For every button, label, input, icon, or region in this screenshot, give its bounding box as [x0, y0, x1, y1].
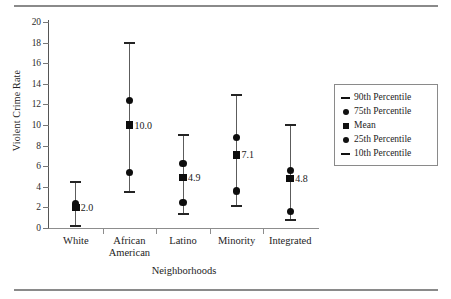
legend-marker-glyph	[343, 123, 349, 129]
mean-square	[126, 121, 134, 129]
y-tick-label: 4	[15, 182, 41, 192]
whisker-cap	[178, 134, 189, 136]
plot-area: 2.010.04.97.14.8	[49, 22, 317, 228]
figure: 02468101214161820 Violent Crime Rate Nei…	[0, 0, 451, 299]
percentile-dot	[126, 97, 133, 104]
whisker-cap	[124, 191, 135, 193]
bottom-rule	[14, 289, 438, 291]
percentile-dot	[126, 169, 133, 176]
y-tick-label: 2	[15, 202, 41, 212]
mean-value-label: 4.9	[188, 172, 201, 183]
legend-item: Mean	[340, 118, 433, 132]
y-tick-label: 0	[15, 223, 41, 233]
y-tick-mark	[43, 228, 49, 229]
whisker-cap	[70, 225, 81, 227]
whisker-cap	[124, 42, 135, 44]
legend-circle-icon	[340, 106, 351, 116]
x-category-label: Integrated	[253, 235, 327, 247]
percentile-dot	[179, 160, 186, 167]
percentile-dot	[179, 199, 186, 206]
legend-marker-glyph	[343, 109, 349, 115]
whisker-cap	[231, 205, 242, 207]
legend-item: 75th Percentile	[340, 104, 433, 118]
whisker-cap	[231, 94, 242, 96]
x-tick-mark	[210, 229, 211, 234]
y-axis-title: Violent Crime Rate	[11, 46, 22, 176]
legend-dash-icon	[340, 148, 351, 158]
whisker-cap	[178, 213, 189, 215]
whisker-cap	[285, 124, 296, 126]
legend-item: 10th Percentile	[340, 146, 433, 160]
mean-square	[233, 151, 241, 159]
legend-dash-icon	[340, 92, 351, 102]
percentile-dot	[287, 208, 294, 215]
y-tick-label: 20	[15, 17, 41, 27]
mean-value-label: 2.0	[81, 202, 94, 213]
x-tick-mark	[263, 229, 264, 234]
legend-item: 90th Percentile	[340, 90, 433, 104]
x-axis-line	[49, 228, 319, 229]
legend-label: 90th Percentile	[354, 92, 411, 102]
category-label-line1: Latino	[169, 235, 196, 246]
legend-marker-glyph	[341, 153, 350, 155]
legend-label: 75th Percentile	[354, 106, 411, 116]
percentile-dot	[287, 167, 294, 174]
category-label-line1: African	[113, 235, 145, 246]
mean-square	[179, 174, 187, 182]
legend-item: 25th Percentile	[340, 132, 433, 146]
legend-label: 25th Percentile	[354, 134, 411, 144]
legend-marker-glyph	[341, 97, 350, 99]
legend-label: 10th Percentile	[354, 148, 411, 158]
x-axis-title: Neighborhoods	[49, 265, 319, 277]
whisker-cap	[285, 219, 296, 221]
percentile-dot	[233, 187, 240, 194]
category-label-line1: Minority	[218, 235, 255, 246]
mean-value-label: 10.0	[134, 120, 152, 131]
category-label-line1: Integrated	[269, 235, 312, 246]
mean-value-label: 4.8	[295, 173, 308, 184]
x-tick-mark	[103, 229, 104, 234]
legend: 90th Percentile75th PercentileMean25th P…	[334, 84, 438, 166]
category-label-line2: American	[92, 247, 166, 259]
top-rule	[14, 5, 438, 7]
legend-label: Mean	[354, 120, 376, 130]
mean-value-label: 7.1	[242, 149, 255, 160]
percentile-dot	[233, 134, 240, 141]
legend-marker-glyph	[343, 137, 349, 143]
x-tick-mark	[156, 229, 157, 234]
whisker-cap	[70, 181, 81, 183]
legend-square-icon	[340, 120, 351, 130]
category-label-line1: White	[63, 235, 89, 246]
legend-circle-icon	[340, 134, 351, 144]
mean-square	[286, 175, 294, 183]
